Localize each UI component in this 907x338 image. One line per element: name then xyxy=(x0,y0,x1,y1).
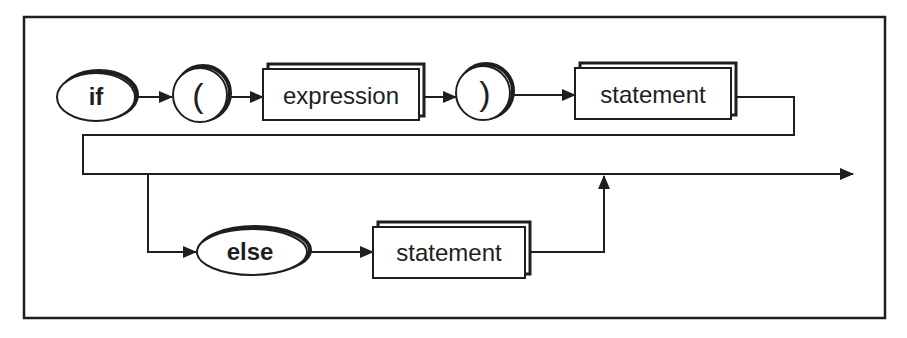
statement-label-2: statement xyxy=(396,239,502,266)
rparen-symbol-node: ) xyxy=(456,64,513,120)
statement-nonterminal-node-1: statement xyxy=(575,63,736,119)
expression-label: expression xyxy=(283,82,399,109)
else-label: else xyxy=(227,238,274,265)
edge-statement2-to-exit xyxy=(530,176,604,252)
edge-junction-to-else xyxy=(148,174,196,252)
lparen-label: ( xyxy=(192,76,204,114)
statement-label-1: statement xyxy=(600,81,706,108)
if-label: if xyxy=(89,83,105,110)
lparen-symbol-node: ( xyxy=(173,66,230,122)
expression-nonterminal-node: expression xyxy=(263,64,424,120)
statement-nonterminal-node-2: statement xyxy=(373,222,530,278)
if-statement-syntax-diagram: if ( expression ) statement else xyxy=(0,0,907,338)
if-keyword-node: if xyxy=(57,71,137,121)
else-keyword-node: else xyxy=(197,227,310,275)
rparen-label: ) xyxy=(479,74,490,112)
